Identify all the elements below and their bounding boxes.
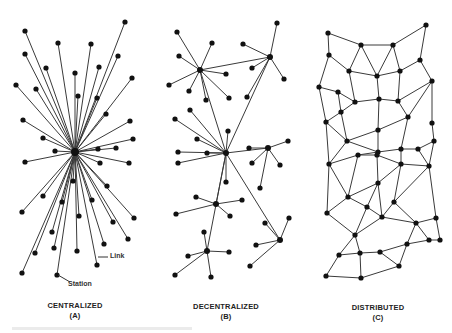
station-node [326,52,331,57]
station-node [415,146,420,151]
station-node [208,274,213,279]
link-line [408,81,432,117]
station-node [96,64,101,69]
link-line [328,33,361,45]
link-line [436,218,440,240]
decentralized-network [166,20,291,279]
station-node [72,70,77,75]
station-node [249,160,254,165]
link-line [420,60,432,81]
station-node [338,109,343,114]
station-node [375,180,380,185]
station-node [185,253,190,258]
station-node [51,245,56,250]
station-node [209,40,214,45]
link-line [319,87,326,122]
station-node [20,117,25,122]
station-node [227,213,232,218]
station-node [352,99,357,104]
link-line [265,223,280,240]
link-line [378,117,408,130]
distributed-sub: (C) [333,313,423,323]
station-node [336,252,341,257]
link-line [377,155,378,183]
link-line [429,166,436,218]
link-line [378,99,379,130]
link-line [377,155,401,164]
station-node [70,178,75,183]
station-node [194,136,199,141]
station-node [247,263,252,268]
station-node [22,159,27,164]
station-node [413,220,418,225]
station-node [352,232,357,237]
centralized-network [13,19,136,277]
link-line [379,99,398,101]
link-line [326,112,341,122]
station-node [223,71,228,76]
link-line [418,149,429,166]
station-node [433,215,438,220]
link-line [400,60,420,71]
station-node [429,120,434,125]
station-node [172,272,177,277]
station-node [204,248,210,254]
station-node [323,119,328,124]
station-node [431,138,436,143]
link-line [25,31,75,152]
link-line [75,121,130,152]
link-line [401,117,408,149]
station-node [345,194,350,199]
station-node [166,82,171,87]
link-line [398,81,432,101]
station-node [253,242,258,247]
station-node [75,93,80,98]
station-node [426,237,431,242]
station-node [174,29,179,34]
station-node [391,199,396,204]
link-line [226,57,270,153]
link-line [349,45,361,71]
station-node [396,263,401,268]
station-node [49,229,54,234]
station-node [358,42,363,47]
station-node [55,40,60,45]
station-node [265,145,271,151]
link-line [377,71,400,76]
station-node [129,75,134,80]
link-line [270,23,277,57]
distributed-label: DISTRIBUTED (C) [333,303,423,323]
station-node [71,148,79,156]
station-node [398,161,403,166]
link-line [196,197,216,204]
station-node [22,28,27,33]
link-annotation: Link [110,252,124,259]
station-node [226,249,231,254]
link-line [175,251,207,275]
station-node [325,30,330,35]
station-node [40,135,45,140]
link-line [361,45,377,76]
station-node [316,84,321,89]
link-line [327,164,329,213]
link-line [420,25,426,60]
link-line [216,200,242,204]
link-line [416,223,429,240]
station-node [126,160,131,165]
station-node [175,160,180,165]
link-line [393,45,400,71]
link-line [367,207,382,217]
link-line [407,240,429,244]
station-node [262,220,267,225]
link-line [22,152,75,273]
link-line [355,235,360,253]
link-line [377,76,379,99]
station-node [286,215,291,220]
link-line [407,223,416,244]
link-line [360,253,361,278]
link-line [329,164,348,197]
station-node [187,107,192,112]
link-line [432,123,434,141]
link-line [52,152,75,232]
station-node [201,229,206,234]
